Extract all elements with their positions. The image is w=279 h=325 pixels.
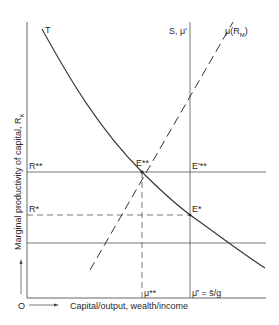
r-double-star-label: R** (29, 161, 43, 171)
mu-double-star-label: μ** (144, 288, 157, 298)
y-arrowhead-icon (20, 259, 23, 264)
diagram-canvas: T S, μ' μ(RM) R** R* E** E'** E* μ** μ̄'… (0, 0, 279, 325)
mu-rm-dashed-curve (90, 22, 233, 270)
e-double-star-point (140, 170, 143, 173)
origin-label: O (18, 301, 25, 311)
x-axis-label: Capital/output, wealth/income (70, 301, 188, 311)
e-double-star-label: E** (136, 158, 150, 168)
y-axis-label: Marginal productivity of capital, RK (13, 113, 25, 250)
mu-rm-label: μ(RM) (225, 26, 248, 38)
e-star-point (189, 214, 192, 217)
x-arrowhead-icon (54, 304, 59, 307)
t-curve-label: T (45, 25, 51, 35)
r-star-label: R* (29, 204, 39, 214)
s-mu-prime-label: S, μ' (169, 26, 187, 36)
mu-bar-label: μ̄' = s̄/g (192, 288, 221, 298)
t-curve (42, 29, 265, 268)
e-prime-double-star-label: E'** (192, 161, 207, 171)
e-star-label: E* (192, 204, 202, 214)
